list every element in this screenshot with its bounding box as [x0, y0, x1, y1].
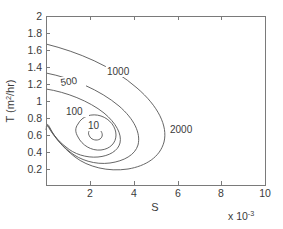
x-tick-label-2: 2 [87, 187, 93, 199]
x-axis-tick-labels: 2 4 6 8 10 [87, 187, 271, 199]
x-tick-label-4: 4 [131, 187, 137, 199]
y-tick-label-1.8: 1.8 [27, 27, 42, 39]
contour-label-10: 10 [88, 120, 100, 131]
contour-label-100: 100 [66, 106, 83, 117]
contour-label-1000: 1000 [107, 66, 130, 77]
x-axis-title: S [151, 201, 158, 213]
x-axis-multiplier-text: x 10-3 [228, 209, 254, 222]
x-tick-label-10: 10 [259, 187, 271, 199]
y-axis-title-text: T (m2/hr) [4, 80, 16, 123]
y-tick-label-0.4: 0.4 [27, 146, 42, 158]
contour-plot-figure: 500 1000 100 10 2000 [0, 0, 283, 229]
x-axis-multiplier: x 10-3 [228, 209, 254, 222]
x-tick-label-6: 6 [175, 187, 181, 199]
y-tick-label-1.6: 1.6 [27, 44, 42, 56]
y-tick-label-2: 2 [36, 10, 42, 22]
y-tick-label-0.2: 0.2 [27, 163, 42, 175]
y-tick-label-1.4: 1.4 [27, 61, 42, 73]
contour-plot-canvas: 500 1000 100 10 2000 [0, 0, 283, 229]
x-tick-label-8: 8 [218, 187, 224, 199]
y-axis-title: T (m2/hr) [4, 80, 16, 123]
y-tick-label-0.6: 0.6 [27, 129, 42, 141]
y-tick-label-1: 1 [36, 95, 42, 107]
contour-label-2000: 2000 [170, 124, 193, 135]
y-tick-label-1.2: 1.2 [27, 78, 42, 90]
y-axis-tick-labels: 2 1.8 1.6 1.4 1.2 1 0.8 0.6 0.4 0.2 [27, 10, 42, 175]
y-tick-label-0.8: 0.8 [27, 112, 42, 124]
